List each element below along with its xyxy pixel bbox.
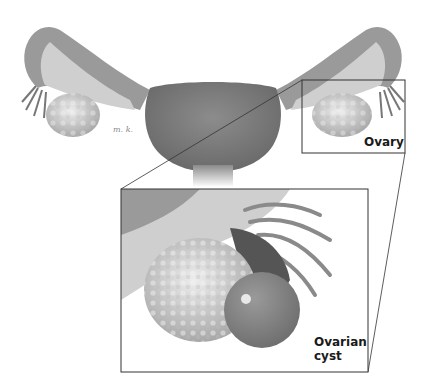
- reproductive-illustration: m. k.: [0, 0, 426, 391]
- ovary-label: Ovary: [364, 135, 404, 149]
- uterus: [145, 82, 281, 172]
- ovarian-cyst: [224, 272, 300, 348]
- left-fimbriae: [22, 86, 46, 118]
- cervix: [193, 165, 233, 187]
- ovarian-cyst-label: Ovarian cyst: [314, 335, 367, 363]
- ovarian-cyst-label-line1: Ovarian: [314, 335, 367, 349]
- right-fimbriae: [380, 86, 404, 118]
- connector-line-bottom: [368, 153, 405, 372]
- artist-signature: m. k.: [113, 125, 133, 134]
- ovarian-cyst-label-line2: cyst: [314, 349, 367, 363]
